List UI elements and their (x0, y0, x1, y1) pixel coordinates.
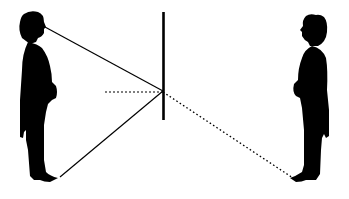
observer-silhouette (19, 11, 58, 182)
eye-ray (45, 27, 163, 91)
image-silhouette (290, 14, 329, 182)
foot-ray (60, 91, 163, 177)
mirror-diagram (0, 0, 349, 199)
virtual-ray (163, 92, 293, 178)
